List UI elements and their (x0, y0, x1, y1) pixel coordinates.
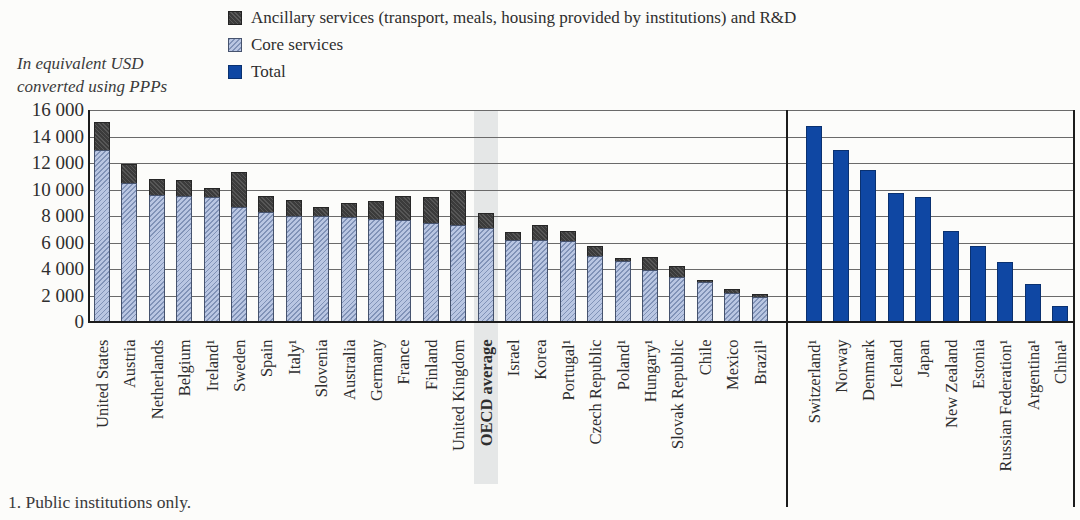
bar-total-estonia (970, 246, 986, 322)
bar-ancillary-czech-republic (587, 246, 603, 255)
bar-core-belgium (176, 196, 192, 322)
x-label-denmark: Denmark (860, 340, 877, 505)
bar-ancillary-spain (258, 196, 274, 212)
bar-core-ireland (204, 197, 220, 322)
x-label-poland: Poland¹ (614, 340, 631, 505)
bar-core-brazil (752, 297, 768, 322)
x-label-mexico: Mexico (724, 340, 741, 505)
x-label-chile: Chile (696, 340, 713, 505)
x-label-czech-republic: Czech Republic (587, 340, 604, 505)
y-tick-label: 14 000 (0, 126, 84, 148)
bar-ancillary-hungary (642, 257, 658, 270)
bar-ancillary-mexico (724, 289, 740, 293)
bar-core-portugal (560, 241, 576, 322)
bar-ancillary-slovenia (313, 207, 329, 216)
y-tick-label: 0 (0, 311, 84, 333)
x-label-slovak-republic: Slovak Republic (669, 340, 686, 505)
bar-core-slovenia (313, 216, 329, 322)
x-label-hungary: Hungary¹ (642, 340, 659, 505)
bar-ancillary-brazil (752, 294, 768, 297)
x-label-estonia: Estonia (969, 340, 986, 505)
x-label-oecd-average: OECD average (477, 340, 494, 505)
bar-core-netherlands (149, 195, 165, 322)
bar-ancillary-oecd-average (478, 213, 494, 228)
y-tick-label: 8 000 (0, 205, 84, 227)
legend-label-total: Total (251, 62, 286, 82)
bar-core-mexico (724, 293, 740, 322)
bar-ancillary-finland (423, 197, 439, 222)
x-label-new-zealand: New Zealand (942, 340, 959, 505)
x-label-argentina: Argentina¹ (1024, 340, 1041, 505)
x-label-japan: Japan (915, 340, 932, 505)
bar-core-oecd-average (478, 228, 494, 322)
x-label-spain: Spain (258, 340, 275, 505)
x-label-france: France (395, 340, 412, 505)
bar-total-argentina (1025, 284, 1041, 322)
bar-ancillary-slovak-republic (669, 266, 685, 277)
footnote: 1. Public institutions only. (8, 492, 191, 513)
bar-total-russian-federation (997, 262, 1013, 322)
ancillary-services-swatch-icon (228, 11, 242, 25)
bar-total-japan (915, 197, 931, 322)
bar-ancillary-italy (286, 200, 302, 216)
x-label-russian-federation: Russian Federation¹ (997, 340, 1014, 505)
x-label-china: China¹ (1052, 340, 1069, 505)
y-tick-label: 10 000 (0, 179, 84, 201)
y-axis (88, 110, 90, 322)
x-label-norway: Norway (832, 340, 849, 505)
x-label-brazil: Brazil¹ (751, 340, 768, 505)
bar-ancillary-korea (532, 225, 548, 240)
bar-core-chile (697, 282, 713, 322)
bar-core-germany (368, 219, 384, 322)
bar-core-australia (341, 217, 357, 322)
bar-total-china (1052, 306, 1068, 322)
legend-item-core: Core services (228, 31, 796, 58)
x-label-belgium: Belgium (176, 340, 193, 505)
panel-separator (786, 110, 788, 507)
y-tick-label: 2 000 (0, 285, 84, 307)
x-label-united-kingdom: United Kingdom (450, 340, 467, 505)
bar-core-spain (258, 212, 274, 322)
bar-ancillary-sweden (231, 172, 247, 206)
x-label-united-states: United States (94, 340, 111, 505)
y-tick-label: 12 000 (0, 152, 84, 174)
bar-ancillary-chile (697, 280, 713, 283)
chart-figure: Ancillary services (transport, meals, ho… (0, 0, 1080, 520)
bar-ancillary-portugal (560, 231, 576, 242)
bar-core-hungary (642, 270, 658, 322)
bar-ancillary-germany (368, 201, 384, 218)
unit-note-line-1: In equivalent USD (17, 52, 167, 75)
gridline (88, 163, 1073, 164)
bar-ancillary-france (395, 196, 411, 220)
bar-core-italy (286, 216, 302, 322)
x-label-germany: Germany (368, 340, 385, 505)
y-axis-unit-note: In equivalent USD converted using PPPs (17, 52, 167, 98)
bar-core-slovak-republic (669, 277, 685, 322)
bar-total-switzerland (806, 126, 822, 322)
x-label-sweden: Sweden (231, 340, 248, 505)
x-label-italy: Italy¹ (285, 340, 302, 505)
bar-core-finland (423, 223, 439, 322)
bar-core-austria (121, 183, 137, 322)
gridline (88, 137, 1073, 138)
x-label-portugal: Portugal¹ (559, 340, 576, 505)
gridline (88, 110, 1073, 111)
bar-core-united-states (94, 150, 110, 322)
y-tick-label: 6 000 (0, 232, 84, 254)
bar-ancillary-israel (505, 232, 521, 240)
bar-ancillary-australia (341, 203, 357, 218)
x-label-ireland: Ireland¹ (203, 340, 220, 505)
bar-ancillary-ireland (204, 188, 220, 197)
x-axis (88, 321, 1075, 323)
unit-note-line-2: converted using PPPs (17, 75, 167, 98)
legend-item-ancillary: Ancillary services (transport, meals, ho… (228, 4, 796, 31)
bar-core-france (395, 220, 411, 322)
y-tick-label: 16 000 (0, 99, 84, 121)
bar-core-united-kingdom (450, 225, 466, 322)
x-label-iceland: Iceland (887, 340, 904, 505)
y-tick-label: 4 000 (0, 258, 84, 280)
bar-core-israel (505, 240, 521, 322)
legend-item-total: Total (228, 58, 796, 85)
bar-core-poland (615, 261, 631, 322)
legend-label-ancillary: Ancillary services (transport, meals, ho… (251, 8, 796, 28)
